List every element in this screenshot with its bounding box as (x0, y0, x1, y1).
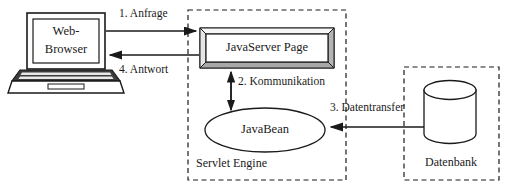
javabean-label: JavaBean (241, 122, 290, 136)
node-javaserver-page: JavaServer Page (200, 28, 334, 68)
flow-antwort-label: 4. Antwort (119, 63, 169, 75)
laptop-deck-stripe-2 (19, 77, 114, 80)
node-javabean: JavaBean (205, 108, 325, 152)
flow-anfrage: 1. Anfrage (106, 7, 196, 31)
flow-antwort: 4. Antwort (110, 55, 199, 75)
laptop-deck-stripe-1 (21, 73, 112, 76)
servlet-engine-label: Servlet Engine (196, 156, 267, 170)
node-datenbank-cylinder (424, 81, 476, 144)
datenbank-label: Datenbank (425, 155, 477, 169)
diagram-canvas: Servlet Engine Datenbank Web- Browser (0, 0, 516, 193)
flow-datentransfer-label: 3. Datentransfer (330, 101, 404, 113)
jsp-bevel-right (328, 28, 334, 68)
laptop-keyboard-deck (12, 70, 120, 81)
flow-kommunikation: 2. Kommunikation (231, 72, 325, 110)
node-web-browser: Web- Browser (8, 13, 124, 93)
flow-datentransfer: 3. Datentransfer (330, 101, 424, 127)
jsp-bevel-left (200, 28, 206, 68)
javaserver-page-label: JavaServer Page (226, 40, 309, 54)
web-browser-label-line2: Browser (45, 42, 88, 56)
cylinder-top (424, 81, 476, 100)
flow-kommunikation-label: 2. Kommunikation (238, 75, 325, 87)
jsp-bevel-top (200, 28, 334, 34)
jsp-bevel-bottom (200, 62, 334, 68)
laptop-trackpad (48, 84, 84, 89)
flow-anfrage-label: 1. Anfrage (119, 7, 168, 20)
web-browser-label-line1: Web- (53, 24, 80, 38)
architecture-diagram: Servlet Engine Datenbank Web- Browser (0, 0, 516, 193)
